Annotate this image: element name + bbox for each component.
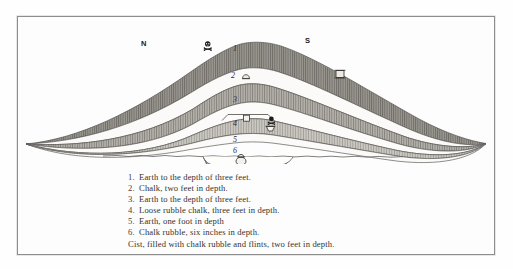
urn-layer-two-right-icon	[335, 70, 346, 78]
caption-item-1-text: Earth to the depth of three feet.	[139, 172, 251, 182]
caption-item-2-text: Chalk, two feet in depth.	[139, 183, 228, 193]
compass-north-label: N	[141, 39, 146, 48]
caption-item-5: 5.Earth, one foot in depth	[128, 216, 458, 227]
layer-marker-4: 4	[233, 119, 237, 128]
caption-item-6-number: 6.	[128, 227, 139, 238]
urn-layer-two-left-icon	[242, 75, 250, 79]
caption-item-1-number: 1.	[128, 172, 139, 183]
layer-marker-2: 2	[231, 71, 235, 80]
caption-item-6: 6.Chalk rubble, six inches in depth.	[128, 227, 458, 238]
caption-item-3: 3.Earth to the depth of three feet.	[128, 194, 458, 205]
caption-item-5-number: 5.	[128, 216, 139, 227]
caption-item-3-text: Earth to the depth of three feet.	[139, 194, 251, 204]
barrow-section-figure: 1 2 3 4 5 6 N S	[17, 16, 495, 164]
caption-item-4-text: Loose rubble chalk, three feet in depth.	[139, 205, 280, 215]
cist-pit	[203, 157, 293, 165]
figure-plate-page: 1 2 3 4 5 6 N S 1.Earth to the depth of …	[0, 0, 513, 269]
caption-item-6-text: Chalk rubble, six inches in depth.	[139, 227, 259, 237]
caption-item-4-number: 4.	[128, 205, 139, 216]
compass-south-label: S	[305, 36, 310, 45]
layer-marker-3: 3	[232, 95, 237, 104]
caption-item-3-number: 3.	[128, 194, 139, 205]
urn-layer-four-left-icon	[244, 115, 250, 121]
caption-item-2-number: 2.	[128, 183, 139, 194]
layer-marker-5: 5	[233, 135, 237, 144]
caption-final-line: Cist, filled with chalk rubble and flint…	[128, 239, 458, 250]
caption-legend: 1.Earth to the depth of three feet. 2.Ch…	[128, 172, 458, 250]
caption-item-1: 1.Earth to the depth of three feet.	[128, 172, 458, 183]
skull-and-crossbones-upper-left-icon	[204, 41, 212, 51]
layer-marker-6: 6	[233, 146, 237, 155]
caption-item-2: 2.Chalk, two feet in depth.	[128, 183, 458, 194]
caption-item-5-text: Earth, one foot in depth	[139, 216, 224, 226]
caption-item-4: 4.Loose rubble chalk, three feet in dept…	[128, 205, 458, 216]
barrow-section-svg: 1 2 3 4 5 6 N S	[17, 16, 495, 164]
layer-marker-1: 1	[233, 44, 237, 53]
